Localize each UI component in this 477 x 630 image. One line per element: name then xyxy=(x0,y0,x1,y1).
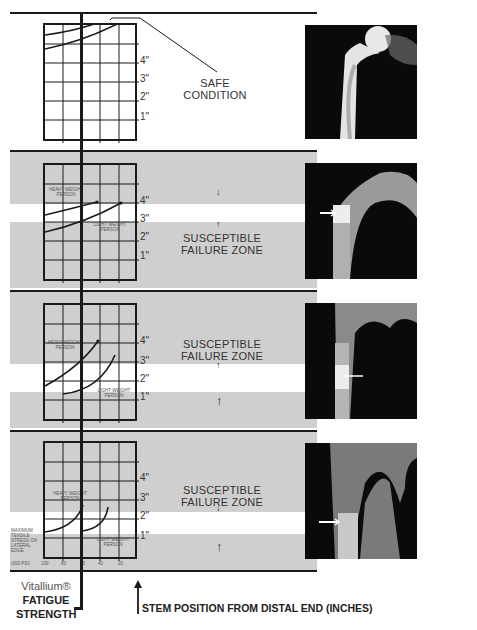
xray-image-2 xyxy=(305,163,417,279)
inch-label-3: 3" xyxy=(140,73,149,84)
stress-axis-ticks: (000 PSI) 100 80 60 40 20 xyxy=(11,561,131,566)
inch-label-4: 4" xyxy=(140,472,149,483)
failure-zone-label: SUSCEPTIBLEFAILURE ZONE xyxy=(180,484,264,508)
down-arrow-icon: ↓ xyxy=(216,188,221,197)
safe-leader-line xyxy=(110,14,225,74)
bottom-border xyxy=(10,570,317,572)
inch-label-1: 1" xyxy=(140,530,149,541)
inch-label-4: 4" xyxy=(140,335,149,346)
up-arrow-icon: ↑ xyxy=(216,361,221,370)
inch-label-1: 1" xyxy=(140,111,149,122)
inch-label-2: 2" xyxy=(140,373,149,384)
xray-image-safe xyxy=(305,25,417,139)
inch-label-2: 2" xyxy=(140,91,149,102)
stress-grid-3 xyxy=(43,303,137,421)
up-arrow-icon: ↑ xyxy=(216,220,221,229)
grid-lines xyxy=(45,305,139,423)
inch-label-3: 3" xyxy=(140,492,149,503)
failure-zone-label: SUSCEPTIBLEFAILURE ZONE xyxy=(180,232,264,256)
light-weight-label: LIGHT WEIGHTPERSON xyxy=(90,537,136,547)
stem-position-arrow-icon xyxy=(134,580,142,614)
xray-image-3 xyxy=(305,303,417,419)
inch-label-3: 3" xyxy=(140,355,149,366)
inch-label-2: 2" xyxy=(140,231,149,242)
xray-image-4 xyxy=(305,443,417,559)
fatigue-strength-label: Vitallium® FATIGUE STRENGTH xyxy=(16,579,76,621)
inch-label-1: 1" xyxy=(140,391,149,402)
fatigue-strength-line xyxy=(80,12,83,610)
light-weight-label: LIGHT WEIGHTPERSON xyxy=(88,222,132,232)
up-arrow-icon: ↑ xyxy=(216,542,223,551)
up-arrow-icon: ↑ xyxy=(216,396,223,405)
stem-position-label: STEM POSITION FROM DISTAL END (INCHES) xyxy=(142,602,373,614)
failure-zone-label: SUSCEPTIBLEFAILURE ZONE xyxy=(180,338,264,362)
max-stress-label: MAXIMUM TENSILE STRESS ON LATERAL EDGE xyxy=(11,528,45,553)
down-arrow-icon: ↓ xyxy=(216,504,221,513)
inch-label-4: 4" xyxy=(140,195,149,206)
safe-condition-label: SAFE CONDITION xyxy=(180,77,250,101)
inch-label-2: 2" xyxy=(140,510,149,521)
inch-label-1: 1" xyxy=(140,250,149,261)
heavy-weight-label: HEAVY WEIGHTPERSON xyxy=(48,491,92,501)
light-weight-label: LIGHT WEIGHTPERSON xyxy=(92,388,136,398)
inch-label-3: 3" xyxy=(140,213,149,224)
